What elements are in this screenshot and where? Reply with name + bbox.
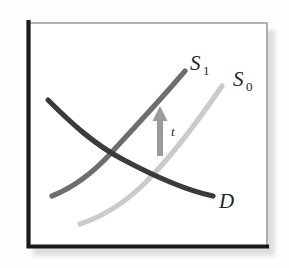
supply-demand-figure: S 1 S 0 D t	[0, 0, 289, 268]
panel-interior	[26, 22, 268, 248]
label-supply-original-subscript: 0	[246, 79, 253, 94]
label-supply-after-tax-main: S	[190, 51, 201, 75]
label-supply-after-tax-subscript: 1	[203, 63, 210, 78]
label-demand: D	[218, 189, 234, 213]
figure-root: S 1 S 0 D t	[0, 0, 289, 268]
label-tax: t	[171, 124, 175, 139]
label-supply-original-main: S	[233, 67, 244, 91]
